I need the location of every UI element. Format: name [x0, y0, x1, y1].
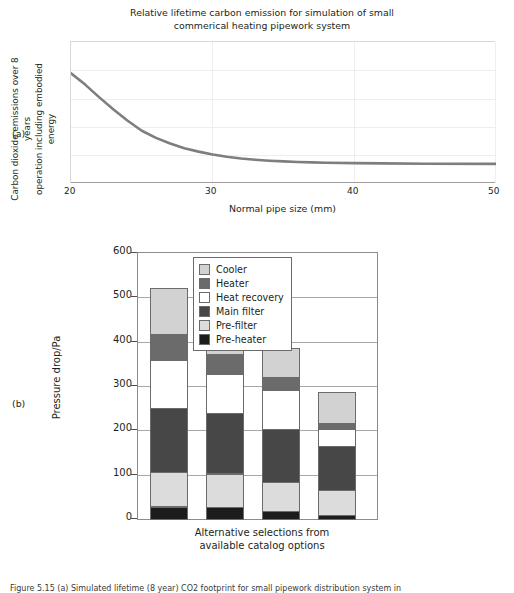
figure-caption: Figure 5.15 (a) Simulated lifetime (8 ye…: [10, 584, 510, 593]
chart-a-xtick: 40: [347, 186, 358, 196]
chart-a-plot-area: [70, 41, 495, 183]
bar-segment-heater: [206, 354, 244, 375]
bar-segment-heat-recovery: [262, 390, 300, 430]
legend-swatch-icon: [199, 320, 210, 331]
panel-a-line-chart: Relative lifetime carbon emission for si…: [0, 0, 514, 225]
bar-segment-pre-filter: [262, 482, 300, 512]
legend-swatch-icon: [199, 334, 210, 345]
bar-segment-heat-recovery: [206, 374, 244, 414]
legend-item-pre-filter: Pre-filter: [199, 318, 284, 332]
chart-b-ytick-label: 300: [72, 378, 132, 389]
chart-b-ytick-mark: [131, 518, 137, 519]
bar-segment-pre-heater: [262, 511, 300, 520]
bar-segment-pre-filter: [150, 472, 188, 507]
chart-b-y-axis-label: Pressure drop/Pa: [51, 293, 62, 463]
legend-label: Cooler: [216, 264, 247, 275]
bar-segment-pre-heater: [318, 515, 356, 520]
legend-label: Pre-heater: [216, 334, 266, 345]
bar-segment-heater: [262, 378, 300, 391]
bar-segment-pre-heater: [206, 507, 244, 519]
bar-segment-cooler: [262, 348, 300, 379]
legend-label: Heater: [216, 278, 249, 289]
bar-segment-pre-heater: [150, 507, 188, 520]
bar-segment-cooler: [150, 288, 188, 335]
legend-item-heater: Heater: [199, 276, 284, 290]
bar-3: [262, 348, 300, 519]
bar-segment-cooler: [318, 392, 356, 424]
chart-a-ylabel-line1: Carbon dioxide emissions over 8 years: [10, 57, 32, 200]
chart-b-ytick-mark: [131, 474, 137, 475]
chart-a-y-axis-label: Carbon dioxide emissions over 8 years op…: [9, 49, 57, 209]
bar-segment-heat-recovery: [150, 360, 188, 409]
chart-a-title-line1: Relative lifetime carbon emission for si…: [130, 7, 394, 18]
chart-a-curve: [71, 42, 496, 184]
chart-b-ytick-label: 0: [72, 511, 132, 522]
chart-b-ytick-mark: [131, 296, 137, 297]
bar-segment-main-filter: [206, 413, 244, 474]
chart-b-xlabel-line1: Alternative selections from: [195, 527, 330, 538]
legend-item-main-filter: Main filter: [199, 304, 284, 318]
chart-a-title-line2: commerical heating pipework system: [174, 20, 350, 31]
bar-segment-pre-filter: [318, 490, 356, 515]
chart-a-title: Relative lifetime carbon emission for si…: [62, 6, 462, 32]
bar-segment-heat-recovery: [318, 429, 356, 447]
chart-b-ytick-label: 600: [72, 245, 132, 256]
legend-item-pre-heater: Pre-heater: [199, 332, 284, 346]
chart-b-ytick-mark: [131, 252, 137, 253]
chart-a-xtick: 50: [488, 186, 499, 196]
bar-segment-main-filter: [150, 408, 188, 472]
legend-label: Main filter: [216, 306, 264, 317]
bar-segment-main-filter: [318, 446, 356, 491]
chart-a-xtick: 30: [205, 186, 216, 196]
legend-swatch-icon: [199, 278, 210, 289]
chart-b-ytick-label: 100: [72, 467, 132, 478]
chart-b-x-axis-label: Alternative selections from available ca…: [137, 526, 387, 552]
bar-segment-pre-filter: [206, 474, 244, 509]
legend-swatch-icon: [199, 264, 210, 275]
chart-b-xlabel-line2: available catalog options: [199, 540, 324, 551]
legend-item-cooler: Cooler: [199, 262, 284, 276]
chart-a-xtick: 20: [64, 186, 75, 196]
bar-1: [150, 288, 188, 519]
bar-4: [318, 392, 356, 519]
legend-swatch-icon: [199, 306, 210, 317]
chart-a-ylabel-line2: operation including embodied energy: [34, 63, 56, 195]
legend-item-heat-recovery: Heat recovery: [199, 290, 284, 304]
panel-b-tag: (b): [12, 398, 25, 409]
chart-b-ytick-label: 200: [72, 422, 132, 433]
bar-segment-heater: [150, 334, 188, 361]
chart-b-ytick-mark: [131, 429, 137, 430]
chart-b-ytick-mark: [131, 385, 137, 386]
legend-label: Pre-filter: [216, 320, 257, 331]
legend-swatch-icon: [199, 292, 210, 303]
chart-a-x-axis-label: Normal pipe size (mm): [70, 203, 495, 214]
chart-b-ytick-label: 400: [72, 334, 132, 345]
legend-label: Heat recovery: [216, 292, 284, 303]
chart-b-legend: CoolerHeaterHeat recoveryMain filterPre-…: [193, 257, 292, 351]
figure-container: Relative lifetime carbon emission for si…: [0, 0, 514, 593]
chart-b-ytick-mark: [131, 341, 137, 342]
bar-segment-main-filter: [262, 429, 300, 483]
chart-b-ytick-label: 500: [72, 289, 132, 300]
panel-b-bar-chart: (b) Pressure drop/Pa 0100200300400500600…: [0, 230, 514, 580]
